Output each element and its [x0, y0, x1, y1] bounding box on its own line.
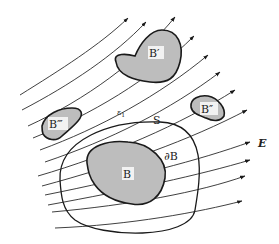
- label-b-triple-prime: B‴: [49, 118, 63, 131]
- label-boundary: ∂B: [164, 150, 178, 163]
- label-b-double-prime: B″: [201, 103, 213, 116]
- label-epsilon: ε1: [117, 108, 125, 118]
- label-field-e: E: [257, 137, 267, 150]
- field-line: [20, 18, 128, 95]
- label-b: B: [123, 168, 131, 181]
- label-b-prime: B′: [149, 47, 160, 60]
- field-diagram: B B′ B″ B‴ ∂B S ε1 E: [0, 0, 279, 244]
- label-surface-s: S: [153, 114, 161, 127]
